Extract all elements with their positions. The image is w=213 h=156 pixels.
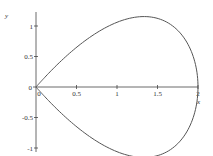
x-tick-label: 0.5 — [72, 90, 81, 98]
axes — [33, 12, 198, 152]
y-axis-label: y — [4, 12, 9, 20]
chart-canvas: 00.511.5210.50-0.5-1 y x — [0, 0, 213, 156]
x-tick-label: 1.5 — [153, 90, 162, 98]
ticks: 00.511.5210.50-0.5-1 — [22, 23, 200, 153]
y-tick-label: 0.5 — [24, 53, 33, 61]
y-tick-label: -1 — [27, 145, 33, 153]
y-tick-label: 0 — [29, 84, 33, 92]
x-axis-label: x — [196, 98, 201, 106]
x-tick-label: 1 — [115, 90, 119, 98]
y-tick-label: 1 — [30, 23, 34, 31]
y-tick-label: -0.5 — [22, 114, 34, 122]
